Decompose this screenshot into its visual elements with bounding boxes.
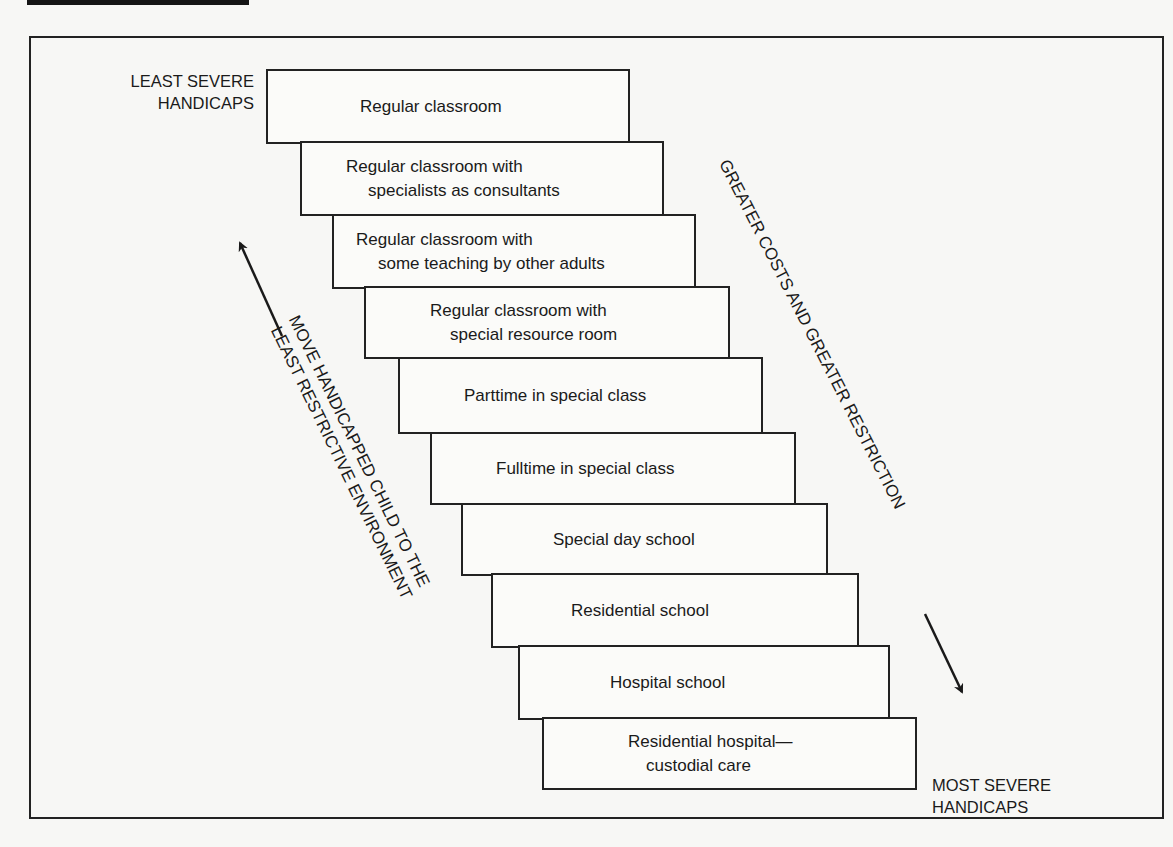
step-parttime-special-class: Parttime in special class	[398, 357, 763, 434]
header-bar	[27, 0, 249, 5]
step-label-line1: Residential hospital—	[628, 730, 915, 754]
step-teaching-other-adults: Regular classroom with some teaching by …	[332, 214, 696, 289]
step-fulltime-special-class: Fulltime in special class	[430, 432, 796, 505]
least-severe-line1: LEAST SEVERE	[96, 70, 254, 92]
step-label-line2: specialists as consultants	[346, 179, 662, 203]
step-label-line2: special resource room	[430, 323, 728, 347]
step-label: Regular classroom	[360, 95, 628, 119]
step-label: Residential school	[571, 599, 857, 623]
step-label: Parttime in special class	[464, 384, 761, 408]
least-severe-line2: HANDICAPS	[96, 92, 254, 114]
step-label-line2: custodial care	[628, 754, 915, 778]
step-hospital-school: Hospital school	[518, 645, 890, 720]
step-label-line1: Regular classroom with	[346, 155, 662, 179]
least-severe-label: LEAST SEVERE HANDICAPS	[96, 70, 254, 114]
step-label-line1: Regular classroom with	[430, 299, 728, 323]
step-residential-school: Residential school	[491, 573, 859, 648]
most-severe-label: MOST SEVERE HANDICAPS	[932, 774, 1051, 818]
step-residential-hospital: Residential hospital— custodial care	[542, 717, 917, 790]
step-label-line2: some teaching by other adults	[356, 252, 694, 276]
step-resource-room: Regular classroom with special resource …	[364, 286, 730, 359]
most-severe-line2: HANDICAPS	[932, 796, 1051, 818]
step-regular-classroom: Regular classroom	[266, 69, 630, 144]
step-label: Fulltime in special class	[496, 457, 794, 481]
step-label: Special day school	[553, 528, 826, 552]
step-label: Hospital school	[610, 671, 888, 695]
step-special-day-school: Special day school	[461, 503, 828, 576]
step-specialists-consultants: Regular classroom with specialists as co…	[300, 141, 664, 216]
step-label-line1: Regular classroom with	[356, 228, 694, 252]
most-severe-line1: MOST SEVERE	[932, 774, 1051, 796]
